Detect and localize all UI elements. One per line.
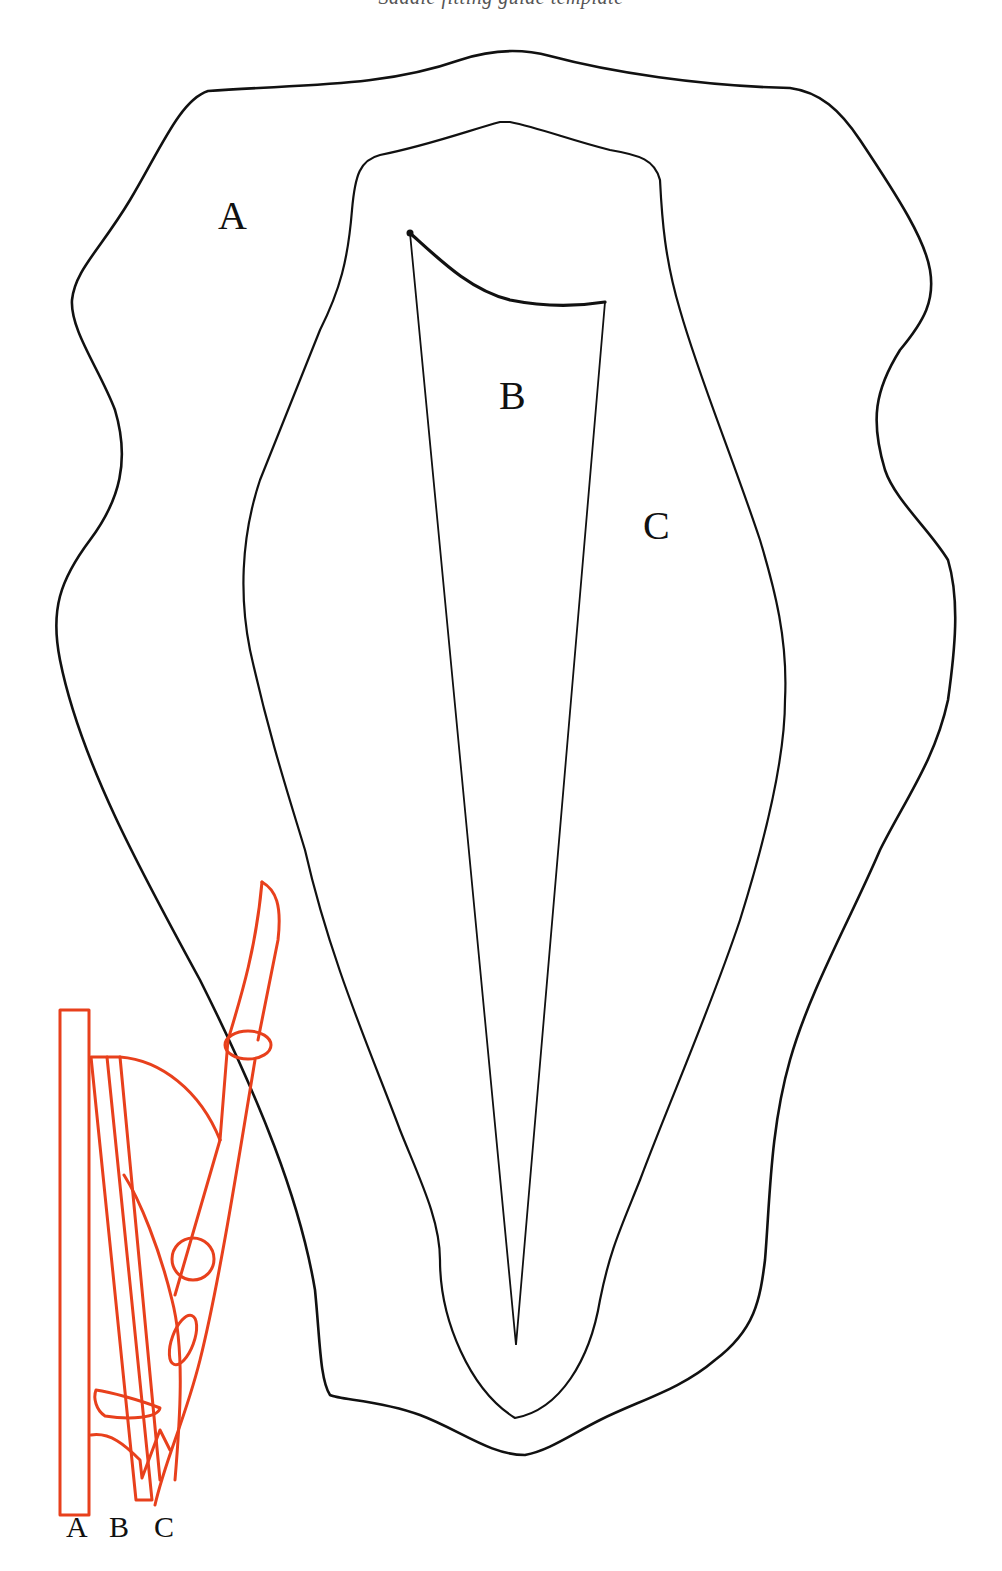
- cross-section-hook-back: [258, 882, 279, 1040]
- cross-section-hole-oval: [164, 1312, 202, 1368]
- cross-section-board-a: [60, 1010, 89, 1515]
- wedge-corner-dot: [407, 230, 414, 237]
- region-label-a: A: [218, 196, 247, 236]
- cross-section-front-edge: [155, 1060, 255, 1505]
- region-label-b: B: [499, 376, 526, 416]
- cross-section-drawing: [60, 882, 279, 1515]
- cross-section-spine: [175, 1140, 220, 1295]
- panel-diagram: [0, 0, 1002, 1571]
- cross-section-label-c: C: [154, 1512, 174, 1542]
- cross-section-cushion: [120, 1057, 220, 1140]
- cross-section-label-b: B: [109, 1512, 129, 1542]
- diagram-canvas: Saddle fitting guide template A: [0, 0, 1002, 1571]
- inner-outline: [243, 122, 785, 1418]
- cross-section-rear-edge: [124, 1175, 180, 1480]
- region-label-c: C: [643, 506, 670, 546]
- cross-section-hole-round: [172, 1238, 214, 1280]
- cross-section-label-a: A: [66, 1512, 88, 1542]
- wedge-top-curve: [410, 233, 605, 306]
